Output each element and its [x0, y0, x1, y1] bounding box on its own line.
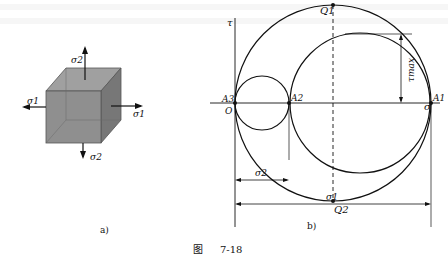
label-origin: O: [225, 106, 233, 116]
label-sigma2-bottom: σ2: [90, 152, 102, 162]
figure-caption-number: 7-18: [220, 244, 242, 255]
cube-element: [46, 68, 121, 143]
panel-b-label: b): [307, 221, 316, 231]
label-tau-max: τmax: [406, 58, 416, 82]
label-q1: Q1: [320, 5, 335, 16]
label-sigma1-left: σ1: [27, 96, 39, 106]
label-sigma1-dim: σ1: [326, 192, 338, 202]
figure-canvas: σ2 σ2 σ1 σ1 a) τ σ O A3 A2 A1 Q1 Q2 σ2 σ…: [0, 0, 448, 266]
label-q2: Q2: [334, 204, 349, 215]
label-sigma2-top: σ2: [71, 55, 83, 65]
figure-caption-prefix: 图: [193, 244, 203, 255]
panel-a-label: a): [100, 225, 109, 235]
sigma2-dimension: [235, 178, 289, 182]
label-a1: A1: [432, 93, 445, 103]
label-sigma-axis: σ: [424, 101, 432, 112]
label-a2: A2: [290, 93, 303, 103]
label-sigma1-right: σ1: [133, 109, 145, 119]
label-sigma2-dim: σ2: [255, 168, 267, 178]
label-tau-axis: τ: [227, 17, 233, 28]
tau-max-dimension: [399, 34, 403, 103]
stress-arrow-bottom: [80, 143, 86, 159]
label-a3: A3: [221, 94, 234, 104]
